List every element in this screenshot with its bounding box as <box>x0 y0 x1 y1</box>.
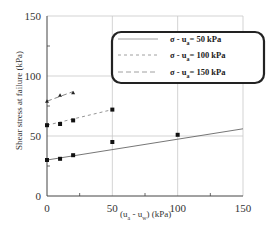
chart-svg: 050100150050100150 σ - ua= 50 kPaσ - ua=… <box>0 0 266 236</box>
x-tick-label: 150 <box>235 202 252 214</box>
legend: σ - ua= 50 kPaσ - ua= 100 kPaσ - ua= 150… <box>112 32 264 83</box>
data-point-square <box>58 157 62 161</box>
series-1 <box>45 129 243 162</box>
fit-line <box>47 110 112 126</box>
series-3 <box>45 91 75 103</box>
x-axis-label: (ua - uw) (kPa) <box>120 209 171 221</box>
x-tick-label: 0 <box>44 202 50 214</box>
data-point-square <box>58 122 62 126</box>
x-tick-label: 100 <box>169 202 186 214</box>
chart-root: 050100150050100150 σ - ua= 50 kPaσ - ua=… <box>0 0 266 236</box>
y-tick-label: 0 <box>36 190 42 202</box>
y-axis-label: Shear stress at failure (kPa) <box>14 51 24 150</box>
data-point-square <box>110 108 114 112</box>
y-tick-label: 50 <box>30 130 42 142</box>
data-point-triangle <box>58 93 62 97</box>
y-tick-label: 100 <box>25 70 42 82</box>
x-tick-label: 50 <box>107 202 119 214</box>
y-tick-label: 150 <box>25 10 42 22</box>
data-point-square <box>45 158 49 162</box>
data-point-square <box>110 140 114 144</box>
data-point-square <box>71 118 75 122</box>
data-series <box>45 91 243 162</box>
data-point-square <box>45 123 49 127</box>
series-2 <box>45 108 114 128</box>
data-point-square <box>176 133 180 137</box>
fit-line <box>47 129 243 160</box>
data-point-square <box>71 153 75 157</box>
